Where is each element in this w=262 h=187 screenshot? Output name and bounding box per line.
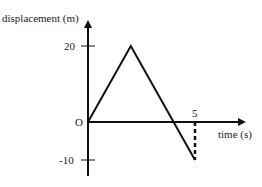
y-tick-label-20: 20 bbox=[64, 40, 76, 52]
y-tick-label-minus10: -10 bbox=[59, 154, 74, 166]
displacement-time-chart: displacement (m) time (s) 20 O -10 5 bbox=[0, 0, 262, 187]
origin-label: O bbox=[75, 116, 83, 128]
displacement-line bbox=[88, 46, 195, 160]
y-axis-label: displacement (m) bbox=[2, 12, 79, 25]
x-axis-label: time (s) bbox=[218, 128, 252, 141]
x-tick-label-5: 5 bbox=[192, 107, 198, 119]
